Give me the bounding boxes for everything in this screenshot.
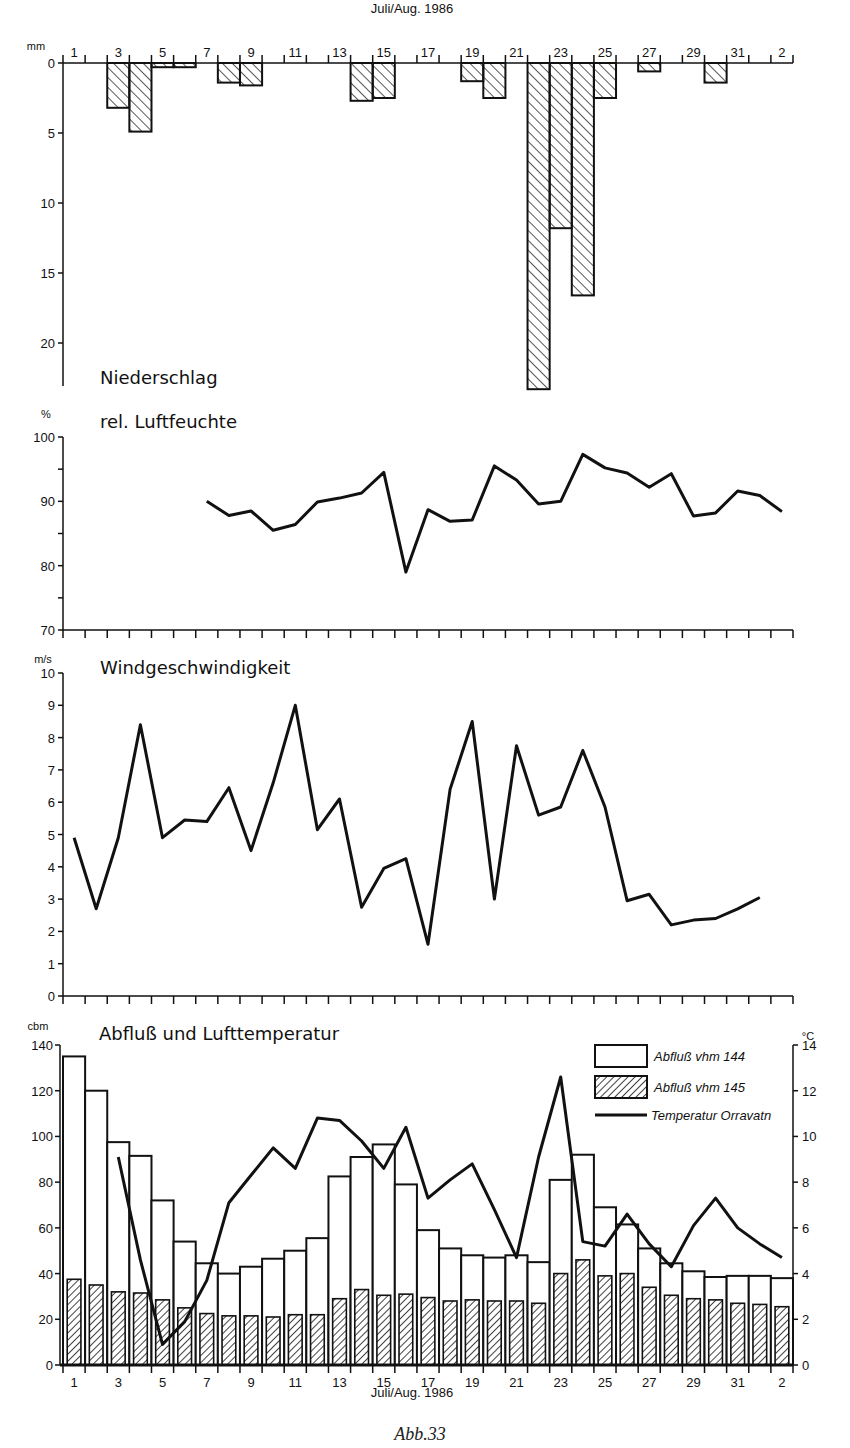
climate-figure: Juli/Aug. 1986 mm 0510152013579111315171… [0, 0, 850, 1448]
tick-label: 3 [48, 892, 55, 907]
tick-label: 13 [332, 1375, 346, 1390]
legend-label-vhm144: Abfluß vhm 144 [653, 1049, 745, 1064]
runoff-bar-vhm145 [687, 1299, 701, 1365]
precip-unit-label: mm [27, 40, 45, 52]
tick-label: 12 [802, 1084, 816, 1099]
tick-label: 0 [48, 989, 55, 1004]
runoff-bar-vhm145 [377, 1295, 391, 1365]
tick-label: 0 [48, 56, 55, 71]
wind-title: Windgeschwindigkeit [100, 657, 290, 678]
tick-label: 9 [247, 45, 254, 60]
runoff-bar-vhm145 [89, 1285, 103, 1365]
precip-title: Niederschlag [100, 367, 218, 388]
runoff-bar-vhm145 [709, 1300, 723, 1365]
tick-label: 100 [31, 1129, 53, 1144]
tick-label: 120 [31, 1084, 53, 1099]
tick-label: 23 [553, 1375, 567, 1390]
legend-label-vhm145: Abfluß vhm 145 [653, 1080, 746, 1095]
tick-label: 100 [33, 430, 55, 445]
precip-bar [240, 63, 262, 85]
tick-label: 90 [41, 494, 55, 509]
tick-label: 20 [39, 1312, 53, 1327]
precip-bar [151, 63, 173, 67]
tick-label: 0 [802, 1358, 809, 1373]
tick-label: 2 [48, 924, 55, 939]
runoff-bar-vhm145 [510, 1301, 524, 1365]
runoff-bar-vhm145 [333, 1299, 347, 1365]
precip-bar [705, 63, 727, 83]
tick-label: 15 [377, 45, 391, 60]
runoff-bar-vhm145 [355, 1290, 369, 1365]
legend: Abfluß vhm 144 Abfluß vhm 145 Temperatur… [595, 1045, 771, 1123]
tick-label: 27 [642, 1375, 656, 1390]
tick-label: 9 [247, 1375, 254, 1390]
runoff-bar-vhm145 [620, 1274, 634, 1365]
precip-bar [483, 63, 505, 98]
tick-label: 17 [421, 45, 435, 60]
tick-label: 40 [39, 1267, 53, 1282]
wind-axes: 012345678910 [41, 666, 793, 1004]
humidity-unit-label: % [41, 408, 51, 420]
tick-label: 27 [642, 45, 656, 60]
legend-label-temperature: Temperatur Orravatn [651, 1108, 771, 1123]
tick-label: 0 [46, 1358, 53, 1373]
precip-axes: 051015201357911131517192123252729312 [41, 45, 793, 386]
runoff-bar-vhm145 [311, 1315, 325, 1365]
runoff-bar-vhm145 [598, 1276, 612, 1365]
runoff-panel: cbm °C Abfluß und Lufttemperatur 0204060… [28, 1020, 817, 1400]
runoff-bar-vhm145 [156, 1300, 170, 1365]
tick-label: 19 [465, 1375, 479, 1390]
tick-label: 10 [802, 1129, 816, 1144]
runoff-bar-vhm145 [134, 1293, 148, 1365]
tick-label: 31 [730, 1375, 744, 1390]
wind-line [74, 705, 760, 944]
tick-label: 2 [778, 45, 785, 60]
precip-bar [129, 63, 151, 132]
tick-label: 9 [48, 698, 55, 713]
humidity-title: rel. Luftfeuchte [100, 411, 237, 432]
tick-label: 4 [802, 1267, 809, 1282]
runoff-bar-vhm145 [775, 1307, 789, 1365]
tick-label: 1 [70, 45, 77, 60]
tick-label: 10 [41, 666, 55, 681]
tick-label: 3 [115, 45, 122, 60]
tick-label: 8 [802, 1175, 809, 1190]
precip-bar [373, 63, 395, 98]
tick-label: 7 [203, 45, 210, 60]
tick-label: 5 [48, 126, 55, 141]
tick-label: 21 [509, 45, 523, 60]
humidity-panel: % rel. Luftfeuchte 708090100 [33, 408, 793, 638]
runoff-bar-vhm145 [488, 1301, 502, 1365]
runoff-bar-vhm145 [288, 1315, 302, 1365]
legend-swatch-vhm145 [595, 1076, 647, 1098]
precip-bar [528, 63, 550, 389]
tick-label: 20 [41, 336, 55, 351]
runoff-unit-left: cbm [28, 1020, 49, 1032]
tick-label: 25 [598, 1375, 612, 1390]
precip-bar [572, 63, 594, 295]
tick-label: 2 [778, 1375, 785, 1390]
tick-label: 15 [41, 266, 55, 281]
runoff-bar-vhm145 [731, 1303, 745, 1365]
tick-label: 80 [41, 559, 55, 574]
tick-label: 5 [48, 828, 55, 843]
tick-label: 7 [203, 1375, 210, 1390]
date-axis-bottom-label: Juli/Aug. 1986 [371, 1385, 453, 1400]
tick-label: 11 [289, 1375, 303, 1390]
tick-label: 21 [509, 1375, 523, 1390]
runoff-bar-vhm145 [576, 1260, 590, 1365]
runoff-bar-vhm145 [399, 1294, 413, 1365]
precip-bar [638, 63, 660, 71]
tick-label: 19 [465, 45, 479, 60]
tick-label: 1 [48, 957, 55, 972]
tick-label: 25 [598, 45, 612, 60]
legend-swatch-vhm144 [595, 1045, 647, 1067]
precip-bar [107, 63, 129, 108]
tick-label: 23 [553, 45, 567, 60]
runoff-bar-vhm145 [532, 1303, 546, 1365]
precip-bar [174, 63, 196, 67]
runoff-title: Abfluß und Lufttemperatur [99, 1023, 340, 1044]
tick-label: 13 [332, 45, 346, 60]
precip-bars [107, 63, 726, 389]
runoff-bar-vhm145 [443, 1301, 457, 1365]
